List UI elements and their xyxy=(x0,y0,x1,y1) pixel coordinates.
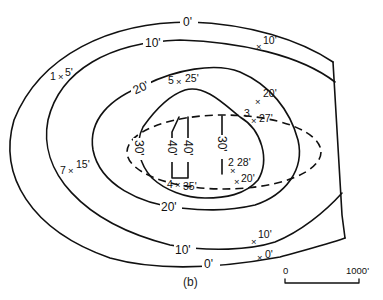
well-7: 7 × 15' xyxy=(60,158,90,176)
well-7-id: 7 xyxy=(60,164,66,176)
svg-text:0': 0' xyxy=(265,248,273,260)
scale-bar: 0 1000' xyxy=(283,265,369,283)
well-7-depth: 15' xyxy=(76,158,90,170)
well-4-depth: 35' xyxy=(183,180,197,192)
marker-icon: × xyxy=(251,236,257,247)
svg-text:20': 20' xyxy=(241,172,255,184)
well-4-id: 4 xyxy=(167,178,173,190)
well-4-marker-icon: × xyxy=(175,179,181,190)
well-7-marker-icon: × xyxy=(68,165,74,176)
well-4: 4 × 35' xyxy=(167,178,197,192)
well-2-marker-icon: × xyxy=(230,165,236,176)
point-10ft-top-right: × 10' xyxy=(256,34,277,52)
well-1-marker-icon: × xyxy=(58,71,64,82)
contour-label-30ft-left: 30' xyxy=(132,140,146,156)
svg-text:10': 10' xyxy=(258,228,272,240)
well-5-id: 5 xyxy=(168,74,174,86)
boundary-line xyxy=(333,62,345,238)
marker-icon: × xyxy=(255,96,261,107)
point-20ft-lower-right: × 20' xyxy=(234,172,255,187)
scale-bar-line xyxy=(285,279,359,283)
contour-label-0ft-bottom: 0' xyxy=(204,257,213,271)
contour-map-svg: 0' 0' 10' 10' 20' 20' 30' 30' 40' 40' 1 … xyxy=(0,0,383,300)
svg-text:20': 20' xyxy=(263,87,277,99)
contour-label-40ft-right: 40' xyxy=(181,140,195,156)
well-1-depth: 5' xyxy=(65,66,73,78)
point-20ft-upper-right: × 20' xyxy=(255,87,277,107)
scale-bar-end-label: 1000' xyxy=(346,265,369,276)
marker-icon: × xyxy=(256,41,262,52)
contour-label-30ft-right: 30' xyxy=(215,136,229,152)
svg-text:10': 10' xyxy=(263,34,277,46)
scale-bar-start-label: 0 xyxy=(283,265,288,276)
well-5-marker-icon: × xyxy=(176,76,182,87)
well-5-depth: 25' xyxy=(185,72,199,84)
well-3-id: 3 xyxy=(244,107,250,119)
marker-icon: × xyxy=(234,176,240,187)
contour-label-40ft-left: 40' xyxy=(165,140,179,156)
contour-label-10ft-top: 10' xyxy=(145,36,161,50)
point-0ft-bottom-right: × 0' xyxy=(257,248,273,263)
contour-map-figure: 0' 0' 10' 10' 20' 20' 30' 30' 40' 40' 1 … xyxy=(0,0,383,300)
contour-label-0ft-top: 0' xyxy=(183,15,192,29)
figure-caption: (b) xyxy=(183,275,198,289)
contour-label-10ft-bottom: 10' xyxy=(175,243,191,257)
well-3-depth: 27' xyxy=(259,112,273,124)
marker-icon: × xyxy=(257,252,263,263)
well-2-depth: 28' xyxy=(237,156,251,168)
well-3-marker-icon: × xyxy=(251,115,257,126)
well-5: 5 × 25' xyxy=(168,72,199,87)
contour-label-20ft-bottom: 20' xyxy=(161,200,177,214)
well-1-id: 1 xyxy=(50,70,56,82)
